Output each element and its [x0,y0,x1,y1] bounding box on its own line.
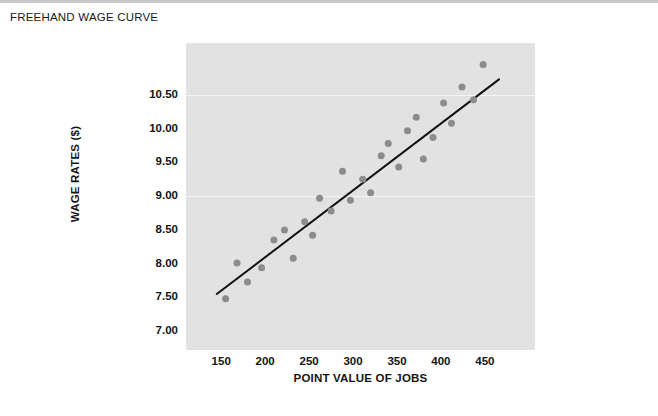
data-point [367,189,374,196]
data-point [328,208,335,215]
data-point [430,134,437,141]
y-tick-label: 10.00 [128,122,178,134]
data-point [316,195,323,202]
bottom-spacer [0,396,658,416]
data-point [420,156,427,163]
data-point [440,100,447,107]
x-tick-label: 350 [377,355,417,367]
data-point [301,218,308,225]
data-point [270,237,277,244]
data-point [448,120,455,127]
y-tick-label: 9.50 [128,155,178,167]
data-point [459,83,466,90]
x-axis-label: POINT VALUE OF JOBS [186,372,535,384]
data-point [290,255,297,262]
data-point [222,295,229,302]
data-point [359,176,366,183]
y-tick-label: 8.50 [128,223,178,235]
y-tick-label: 8.00 [128,257,178,269]
trendline [217,79,499,294]
data-point [347,197,354,204]
x-tick-label: 150 [201,355,241,367]
data-point [258,264,265,271]
chart-figure: 7.007.508.008.509.009.5010.0010.50 15020… [0,0,658,416]
data-points [222,61,487,302]
y-axis-label: WAGE RATES ($) [69,94,81,254]
data-point [404,127,411,134]
data-point [413,114,420,121]
data-point [480,61,487,68]
chart-page: FREEHAND WAGE CURVE 7.007.508.008.509.00… [0,0,658,416]
data-point [385,140,392,147]
x-tick-label: 400 [421,355,461,367]
x-tick-label: 300 [333,355,373,367]
data-point [234,260,241,267]
data-point [244,278,251,285]
y-tick-label: 7.00 [128,324,178,336]
y-tick-label: 7.50 [128,290,178,302]
data-point [378,152,385,159]
x-tick-label: 250 [289,355,329,367]
data-point [309,232,316,239]
y-tick-label: 9.00 [128,189,178,201]
data-point [281,226,288,233]
plot-area [186,43,535,350]
x-tick-label: 200 [245,355,285,367]
trendline-segment [217,79,499,294]
data-point [470,96,477,103]
data-point [395,164,402,171]
y-tick-label: 10.50 [128,88,178,100]
data-point [339,168,346,175]
plot-svg [186,43,535,350]
x-tick-label: 450 [465,355,505,367]
